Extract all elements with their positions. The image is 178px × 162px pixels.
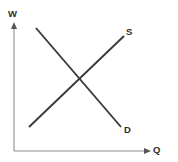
demand-curve (36, 28, 121, 127)
y-axis-arrow-icon (11, 22, 17, 29)
x-axis-arrow-icon (144, 148, 151, 154)
supply-demand-chart: W Q S D (0, 0, 178, 162)
supply-curve-label: S (126, 27, 133, 37)
y-axis-label: W (8, 9, 17, 19)
demand-curve-label: D (124, 125, 131, 135)
x-axis-label: Q (153, 145, 161, 155)
chart-canvas (0, 0, 178, 162)
